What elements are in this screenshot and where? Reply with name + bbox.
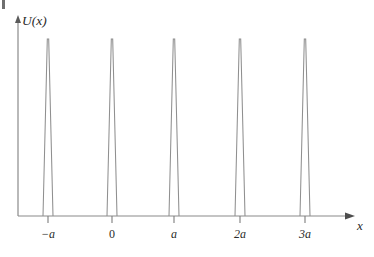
x-tick-label-zero: 0 <box>109 228 115 240</box>
x-axis-arrowhead <box>345 213 355 220</box>
potential-spike <box>169 39 179 216</box>
plot-canvas <box>0 0 374 257</box>
x-tick-label-a: a <box>171 228 177 240</box>
x-tick-label-2a: 2a <box>234 228 246 240</box>
potential-spike <box>43 39 53 216</box>
potential-spike <box>235 39 245 216</box>
potential-function-figure: U(x) x −a 0 a 2a 3a <box>0 0 374 257</box>
potential-spike <box>107 39 117 216</box>
x-axis-label: x <box>357 219 363 232</box>
x-tick-label-3a: 3a <box>299 228 311 240</box>
potential-spike <box>300 39 310 216</box>
x-tick-label-minus-a: −a <box>41 228 55 240</box>
y-axis-arrowhead <box>15 15 21 23</box>
potential-spikes-group <box>43 39 310 216</box>
axis-ticks-group <box>48 216 305 223</box>
y-axis-label: U(x) <box>22 14 47 28</box>
